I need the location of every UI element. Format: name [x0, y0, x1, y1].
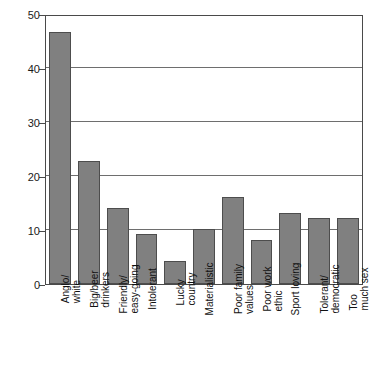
x-axis-label-line1: Friendly/ [118, 265, 129, 314]
bar-slot [190, 16, 219, 284]
x-label-slot: Intolerant [132, 289, 161, 384]
x-label-slot: Friendly/easy-going [103, 289, 132, 384]
bar-slot [103, 16, 132, 284]
bar [78, 161, 100, 284]
x-label-slot: Luckycountry [161, 289, 190, 384]
x-axis-label-line1: Poor work [262, 266, 273, 311]
bar-slot [161, 16, 190, 284]
bar-series [46, 16, 362, 284]
y-tick-label: 20 [28, 171, 45, 183]
x-axis-label-line1: Big/beer [89, 270, 100, 307]
x-label-slot: Poor familyvalues [218, 289, 247, 384]
x-axis-label-line1: Too [348, 268, 359, 311]
x-axis-label-line1: Materialistic [204, 263, 215, 316]
x-axis-label: Toomuch sex [348, 268, 370, 311]
y-tick-label: 10 [28, 225, 45, 237]
bar-slot [276, 16, 305, 284]
x-label-slot: Sport loving [276, 289, 305, 384]
x-label-slot: Toomuch sex [333, 289, 362, 384]
y-tick-label: 30 [28, 117, 45, 129]
y-tick-label: 40 [28, 63, 45, 75]
x-axis-label-line1: Sport loving [290, 263, 301, 316]
x-axis-labels: Anglo/whiteBig/beerdrinkersFriendly/easy… [46, 289, 362, 384]
bar-slot [333, 16, 362, 284]
x-axis-label-line2: much sex [359, 268, 370, 311]
x-label-slot: Materialistic [190, 289, 219, 384]
bar-slot [75, 16, 104, 284]
x-axis-label: Materialistic [204, 263, 215, 316]
x-label-slot: Tolerant/democratic [305, 289, 334, 384]
x-axis-label-line1: Tolerant/ [319, 265, 330, 314]
x-axis-label-line1: Intolerant [147, 268, 158, 310]
bar-slot [132, 16, 161, 284]
x-axis-label-line1: Poor family [233, 264, 244, 314]
x-label-slot: Big/beerdrinkers [75, 289, 104, 384]
x-axis-label: Sport loving [290, 263, 301, 316]
x-axis-label-line1: Lucky [175, 273, 186, 306]
y-tick-label: 0 [34, 279, 45, 291]
y-tick-label: 50 [28, 9, 45, 21]
bar-slot [218, 16, 247, 284]
x-label-slot: Poor workethic [247, 289, 276, 384]
bar [49, 32, 71, 284]
x-axis-label-line1: Anglo/ [60, 275, 71, 303]
x-axis-label: Intolerant [147, 268, 158, 310]
bar-slot [247, 16, 276, 284]
x-label-slot: Anglo/white [46, 289, 75, 384]
bar-slot [46, 16, 75, 284]
bar-slot [305, 16, 334, 284]
bar-chart: 01020304050 Anglo/whiteBig/beerdrinkersF… [0, 0, 385, 386]
